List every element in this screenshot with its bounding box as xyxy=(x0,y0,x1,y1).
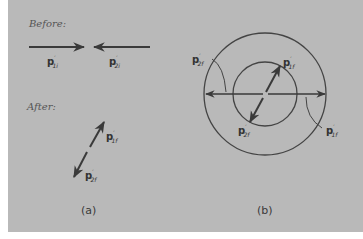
momentum-circles xyxy=(204,33,326,155)
label-p1f-outer: p′1f xyxy=(326,125,337,138)
label-p2f: p′2f xyxy=(85,170,96,183)
label-prime: ′ xyxy=(333,123,334,130)
after-heading: After: xyxy=(27,102,56,112)
label-sub: 1f xyxy=(112,137,118,144)
leader-p1f-outer xyxy=(306,97,322,128)
label-p2f-inner: p′2f xyxy=(238,125,249,138)
label-prime: ′ xyxy=(290,55,291,62)
label-sub: 1i xyxy=(53,62,58,69)
label-prime: ′ xyxy=(116,54,117,61)
caption-a: (a) xyxy=(81,205,96,216)
label-sub: 2f xyxy=(198,60,204,67)
label-sub: 1f xyxy=(289,63,295,70)
label-prime: ′ xyxy=(199,52,200,59)
label-p2f-outer: p′2f xyxy=(192,54,203,67)
before-heading: Before: xyxy=(29,19,66,29)
caption-b: (b) xyxy=(257,205,273,216)
label-sub: 1f xyxy=(332,131,338,138)
label-p1f: p′1f xyxy=(106,131,117,144)
label-prime: ′ xyxy=(92,168,93,175)
label-sub: 2i xyxy=(115,62,120,69)
label-p1f-inner: p′1f xyxy=(283,57,294,70)
label-p1i: p′1i xyxy=(47,56,58,69)
label-sub: 2f xyxy=(244,131,250,138)
label-sub: 2f xyxy=(91,176,97,183)
leader-p2f-outer xyxy=(212,59,226,92)
label-prime: ′ xyxy=(113,129,114,136)
arrow-inner-upper xyxy=(266,66,280,92)
arrow-inner-lower xyxy=(250,98,263,122)
label-prime: ′ xyxy=(245,123,246,130)
diagram-canvas xyxy=(0,0,363,239)
label-p2i: p′2i xyxy=(109,56,120,69)
after-arrows xyxy=(74,122,104,177)
arrow-p1f xyxy=(90,122,104,147)
label-prime: ′ xyxy=(54,54,55,61)
